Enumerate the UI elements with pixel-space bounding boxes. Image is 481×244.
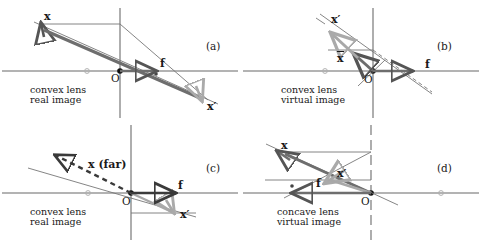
focal-point-a: [154, 72, 158, 76]
image-label-b: x′: [331, 14, 340, 26]
panel-tag-b: (b): [437, 41, 452, 53]
image-link-c: [131, 193, 172, 212]
focal-label-a: f: [160, 58, 165, 70]
image-label-c: x′: [180, 209, 189, 221]
caption-c-line2: real image: [30, 217, 81, 228]
object-label-c: x (far): [88, 159, 126, 171]
origin-label-d: O: [361, 196, 370, 208]
origin-label-a: O: [111, 73, 120, 85]
origin-label-b: O: [364, 74, 373, 86]
panel-tag-c: (c): [206, 163, 220, 175]
caption-b-line2: virtual image: [281, 95, 345, 106]
lens-ray-diagram-figure: x f x′ O (a) convex lens real image x′ x…: [0, 0, 481, 244]
origin-label-c: O: [122, 196, 131, 208]
caption-a-line2: real image: [30, 95, 81, 106]
panel-tag-d: (d): [437, 163, 452, 175]
object-vector-a: [41, 23, 44, 37]
focal-label-c: f: [178, 180, 183, 192]
caption-d-line2: virtual image: [277, 217, 341, 228]
image-link-d: [330, 180, 371, 193]
ray-tick-b: [316, 18, 325, 24]
object-label-b: x: [337, 51, 344, 65]
image-label-d: x′: [337, 168, 346, 180]
panel-b-graphics: [243, 8, 479, 118]
panel-tag-a: (a): [206, 41, 220, 53]
object-link-d: [285, 154, 371, 193]
image-vector-b: [331, 33, 358, 58]
object-label-d: x: [281, 140, 288, 152]
focal-point-d: [290, 184, 294, 188]
focal-label-d: f: [316, 178, 321, 190]
object-label-a: x: [44, 11, 51, 23]
image-label-a: x′: [207, 101, 216, 113]
focal-label-b: f: [425, 59, 430, 71]
